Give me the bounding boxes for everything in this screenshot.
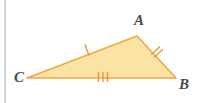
- triangle-diagram: A C B: [0, 0, 198, 103]
- triangle-figure-container: A C B: [0, 0, 198, 103]
- vertex-label-a: A: [133, 12, 144, 28]
- vertex-label-c: C: [14, 69, 25, 85]
- vertex-label-b: B: [178, 76, 189, 92]
